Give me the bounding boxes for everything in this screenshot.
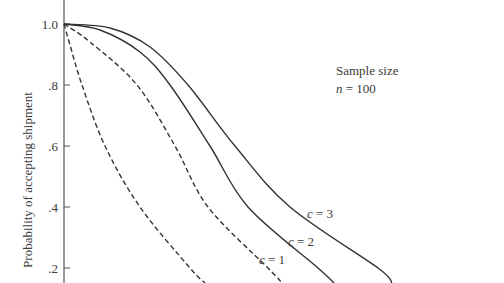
oc-curve-chart: 1.0.8.6.4.2 Probability of accepting shi…	[0, 0, 504, 283]
label-c3: c = 3	[307, 206, 333, 221]
y-tick-label: .6	[48, 139, 58, 154]
label-c2: c = 2	[288, 234, 314, 249]
annotation-n: n = 100	[336, 81, 376, 96]
curve-c1	[64, 24, 282, 283]
y-tick-label: .2	[48, 261, 58, 276]
y-tick-label: .4	[48, 200, 58, 215]
annotation-sample-size: Sample size	[336, 63, 399, 78]
curve-c0	[64, 24, 205, 283]
label-c1: c = 1	[259, 252, 285, 267]
y-tick-label: 1.0	[42, 17, 58, 32]
y-tick-label: .8	[48, 78, 58, 93]
y-axis-ticks: 1.0.8.6.4.2	[42, 17, 70, 276]
y-axis-label: Probability of accepting shipment	[20, 92, 35, 268]
